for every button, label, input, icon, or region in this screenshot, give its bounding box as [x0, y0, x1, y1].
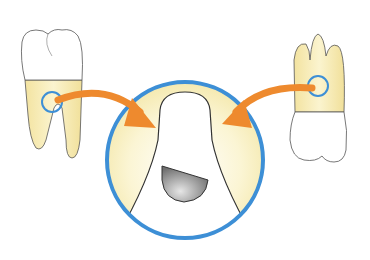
left-tooth-crown: [21, 30, 82, 81]
right-tooth-crown: [290, 112, 347, 162]
right-tooth: [290, 34, 347, 162]
dental-furcation-diagram: [0, 0, 370, 260]
right-tooth-roots: [294, 34, 344, 112]
